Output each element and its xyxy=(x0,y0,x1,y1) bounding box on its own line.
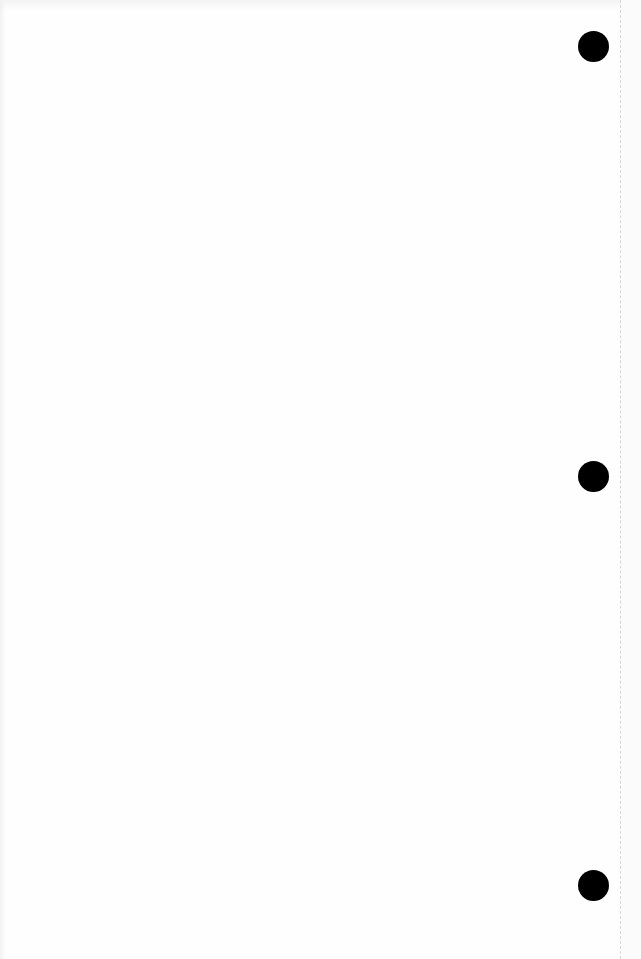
punch-hole-top xyxy=(578,31,609,62)
scan-top-shadow xyxy=(0,0,641,10)
perforation-edge-line xyxy=(620,0,621,959)
blank-document-page xyxy=(0,0,641,959)
page-right-margin xyxy=(621,0,641,959)
punch-hole-bottom xyxy=(578,870,609,901)
scan-left-shadow xyxy=(0,0,6,959)
punch-hole-middle xyxy=(578,461,609,492)
